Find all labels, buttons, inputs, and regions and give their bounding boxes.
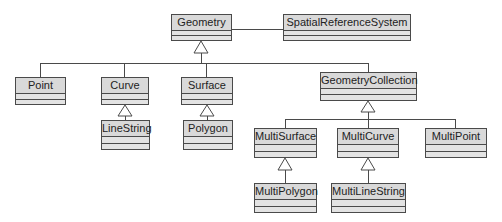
generalization-arrow-icon [361, 101, 375, 112]
class-spatial-reference-system[interactable]: SpatialReferenceSystem [283, 14, 411, 41]
generalization-arrow-icon [361, 158, 375, 170]
operations-compartment [102, 144, 149, 150]
connector-lines [0, 0, 502, 222]
class-name: LineString [102, 121, 149, 137]
class-multi-surface[interactable]: MultiSurface [254, 128, 317, 158]
class-name: MultiSurface [255, 129, 316, 145]
class-name: Surface [182, 78, 232, 94]
operations-compartment [338, 152, 398, 158]
operations-compartment [255, 207, 316, 213]
class-name: Polygon [184, 121, 232, 137]
operations-compartment [102, 100, 148, 105]
class-multi-line-string[interactable]: MultiLineString [331, 183, 406, 213]
generalization-arrow-icon [200, 105, 214, 116]
class-name: MultiCurve [338, 129, 398, 145]
class-name: Curve [102, 78, 148, 94]
class-name: MultiLineString [332, 184, 405, 200]
generalization-arrow-icon [194, 41, 208, 53]
class-name: Point [16, 78, 65, 94]
class-point[interactable]: Point [15, 77, 66, 105]
generalization-arrow-icon [278, 158, 292, 170]
class-multi-polygon[interactable]: MultiPolygon [254, 183, 317, 213]
class-name: MultiPolygon [255, 184, 316, 200]
class-curve[interactable]: Curve [101, 77, 149, 105]
operations-compartment [284, 36, 410, 40]
operations-compartment [426, 152, 486, 158]
class-name: GeometryCollection [321, 73, 416, 89]
class-name: MultiPoint [426, 129, 486, 145]
operations-compartment [321, 95, 416, 100]
class-multi-point[interactable]: MultiPoint [425, 128, 487, 158]
class-name: Geometry [172, 15, 231, 31]
class-geometry-collection[interactable]: GeometryCollection [320, 72, 417, 101]
class-polygon[interactable]: Polygon [183, 120, 233, 150]
operations-compartment [16, 100, 65, 105]
class-line-string[interactable]: LineString [101, 120, 150, 150]
generalization-arrow-icon [118, 105, 132, 116]
operations-compartment [182, 100, 232, 105]
class-geometry[interactable]: Geometry [171, 14, 232, 41]
operations-compartment [332, 207, 405, 213]
operations-compartment [172, 36, 231, 40]
class-multi-curve[interactable]: MultiCurve [337, 128, 399, 158]
operations-compartment [184, 144, 232, 150]
class-name: SpatialReferenceSystem [284, 15, 410, 31]
operations-compartment [255, 152, 316, 158]
class-surface[interactable]: Surface [181, 77, 233, 105]
